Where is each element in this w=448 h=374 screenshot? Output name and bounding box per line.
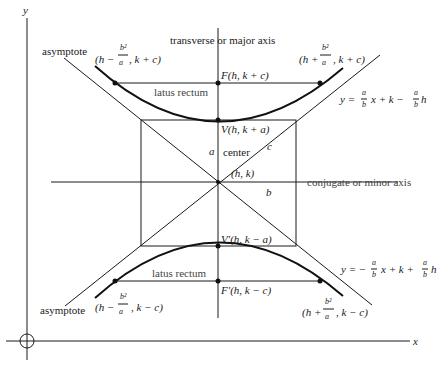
focus-label: F(h, k + c) [220, 69, 269, 82]
svg-text:b²: b² [120, 43, 127, 52]
b-label: b [266, 186, 272, 198]
svg-text:b²: b² [120, 292, 127, 301]
upper-left-point-label: (h − b² a , k + c) [95, 43, 161, 67]
focus-prime-label: F′(h, k − c) [220, 284, 271, 297]
vertex-prime-point [216, 244, 221, 249]
focus-point [216, 81, 221, 86]
upper-left-latus-point [113, 81, 118, 86]
svg-text:, k − c): , k − c) [336, 306, 368, 319]
svg-text:y =: y = [339, 93, 355, 105]
hyperbola-diagram: y x transverse or major axis asymptote a… [0, 0, 448, 374]
svg-text:b: b [372, 270, 376, 279]
asymptote-lower-label: asymptote [40, 304, 85, 316]
conjugate-axis-label: conjugate or minor axis [307, 176, 411, 188]
svg-text:a: a [119, 307, 123, 316]
lower-asymptote-equation: y = − a b x + k + a b h [340, 258, 437, 279]
lower-left-latus-point [113, 279, 118, 284]
asymptote-upper-label: asymptote [42, 45, 87, 57]
svg-text:a: a [423, 258, 427, 267]
lower-right-point-label: (h + b² a , k − c) [302, 297, 368, 321]
svg-text:a: a [325, 312, 329, 321]
svg-text:b: b [423, 270, 427, 279]
upper-right-point-label: (h + b² a , k + c) [299, 43, 365, 67]
center-label: center [223, 146, 250, 158]
upper-right-latus-point [318, 81, 323, 86]
vertex-point [216, 118, 221, 123]
svg-text:a: a [362, 88, 366, 97]
svg-text:a: a [372, 258, 376, 267]
svg-text:(h +: (h + [299, 53, 318, 66]
c-label: c [267, 140, 272, 152]
vertex-prime-label: V′(h, k − a) [221, 233, 272, 246]
center-point [216, 180, 220, 184]
svg-text:b: b [362, 100, 366, 109]
latus-rectum-lower-label: latus rectum [152, 267, 207, 279]
svg-text:a: a [414, 88, 418, 97]
transverse-axis-label: transverse or major axis [170, 34, 275, 46]
svg-text:, k + c): , k + c) [333, 53, 365, 66]
vertex-label: V(h, k + a) [221, 123, 270, 136]
svg-text:a: a [119, 58, 123, 67]
upper-asymptote-equation: y = a b x + k − a b h [339, 88, 427, 109]
svg-text:x + k −: x + k − [370, 93, 404, 105]
svg-text:(h −: (h − [95, 301, 114, 314]
lower-left-point-label: (h − b² a , k − c) [95, 292, 163, 316]
svg-text:b²: b² [322, 43, 329, 52]
svg-text:(h −: (h − [95, 53, 114, 66]
svg-text:b²: b² [325, 297, 332, 306]
svg-text:h: h [421, 93, 427, 105]
lower-branch [95, 242, 343, 298]
lower-right-latus-point [318, 279, 323, 284]
svg-text:(h +: (h + [302, 306, 321, 319]
svg-text:y = −: y = − [340, 263, 366, 275]
svg-text:, k + c): , k + c) [129, 53, 161, 66]
a-label: a [209, 145, 215, 157]
svg-text:b: b [414, 100, 418, 109]
focus-prime-point [216, 279, 221, 284]
svg-text:, k − c): , k − c) [131, 301, 163, 314]
svg-text:x + k +: x + k + [380, 263, 414, 275]
y-axis-label: y [22, 4, 28, 16]
svg-text:a: a [322, 58, 326, 67]
x-axis-label: x [412, 335, 418, 347]
center-coords-label: (h, k) [231, 167, 255, 180]
svg-text:h: h [431, 263, 437, 275]
latus-rectum-upper-label: latus rectum [154, 86, 209, 98]
